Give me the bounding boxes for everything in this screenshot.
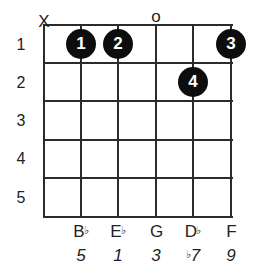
interval-degree: 7 (191, 246, 200, 265)
nut-line (44, 24, 233, 26)
interval-string-4: 3 (141, 245, 171, 265)
fret-line-3 (44, 139, 233, 141)
string-line-4 (155, 24, 157, 218)
note-letter: F (226, 222, 236, 241)
fret-line-2 (44, 100, 233, 102)
interval-degree: 9 (226, 246, 235, 265)
interval-degree: 5 (76, 246, 85, 265)
interval-string-5: ♭7 (178, 245, 208, 265)
fret-line-4 (44, 177, 233, 179)
note-letter: B (73, 222, 84, 241)
note-name-string-3: E♭ (103, 221, 133, 241)
finger-dot-3: 3 (216, 29, 246, 59)
fret-number-3: 3 (11, 112, 31, 130)
fret-line-1 (44, 62, 233, 64)
note-letter: G (150, 222, 163, 241)
string-line-5 (192, 24, 194, 218)
interval-degree: 1 (113, 246, 122, 265)
finger-dot-1: 1 (66, 29, 96, 59)
interval-string-3: 1 (103, 245, 133, 265)
fret-number-1: 1 (11, 36, 31, 54)
flat-sign: ♭ (196, 224, 201, 236)
interval-string-6: 9 (216, 245, 246, 265)
interval-degree: 3 (151, 246, 160, 265)
muted-string-marker: X (36, 14, 52, 30)
string-line-1 (43, 24, 45, 218)
chord-diagram: 1 2 3 4 5 X o 1 2 3 4 B♭ E♭ G D♭ F 5 1 3… (0, 0, 259, 279)
note-name-string-4: G (141, 221, 171, 241)
fret-line-5 (44, 216, 233, 218)
interval-string-2: 5 (66, 245, 96, 265)
finger-dot-2: 2 (103, 29, 133, 59)
note-name-string-6: F (216, 221, 246, 241)
finger-dot-4: 4 (178, 67, 208, 97)
note-name-string-2: B♭ (66, 221, 96, 241)
open-string-marker: o (148, 9, 164, 25)
fret-number-5: 5 (11, 189, 31, 207)
note-letter: E (110, 222, 121, 241)
flat-sign: ♭ (84, 224, 89, 236)
note-name-string-5: D♭ (178, 221, 208, 241)
fret-number-4: 4 (11, 150, 31, 168)
fret-number-2: 2 (11, 74, 31, 92)
flat-sign: ♭ (121, 224, 126, 236)
